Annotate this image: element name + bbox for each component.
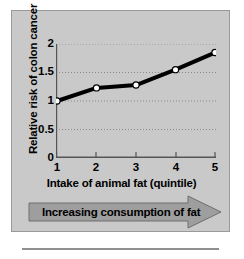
data-point-markers	[56, 49, 216, 104]
figure-panel: Relative risk of colon cancer 2 1.5 1 0.…	[11, 10, 230, 232]
plot-area	[56, 44, 216, 158]
x-tick-label-4: 4	[166, 161, 186, 173]
data-point-1	[56, 98, 60, 104]
line-chart-svg	[56, 44, 216, 158]
y-tick-label-1: 1	[28, 95, 54, 106]
x-tick-label-3: 3	[126, 161, 146, 173]
data-point-3	[133, 82, 139, 88]
data-point-2	[93, 85, 99, 91]
increasing-consumption-arrow: Increasing consumption of fat	[28, 195, 222, 229]
x-tick-marks	[57, 152, 216, 157]
data-series-line	[57, 53, 215, 101]
y-tick-label-0-5: 0.5	[28, 124, 54, 135]
y-axis-tick-labels: 2 1.5 1 0.5 0	[24, 44, 54, 158]
data-point-5	[212, 49, 216, 55]
y-tick-label-1-5: 1.5	[28, 66, 54, 77]
x-axis-title: Intake of animal fat (quintile)	[12, 177, 231, 189]
data-point-4	[172, 67, 178, 73]
bottom-divider	[22, 248, 219, 250]
y-tick-label-2: 2	[28, 38, 54, 49]
arrow-label: Increasing consumption of fat	[42, 195, 192, 229]
x-tick-label-2: 2	[86, 161, 106, 173]
x-axis-tick-labels: 1 2 3 4 5	[56, 161, 216, 175]
x-tick-label-1: 1	[47, 161, 67, 173]
x-tick-label-5: 5	[205, 161, 225, 173]
